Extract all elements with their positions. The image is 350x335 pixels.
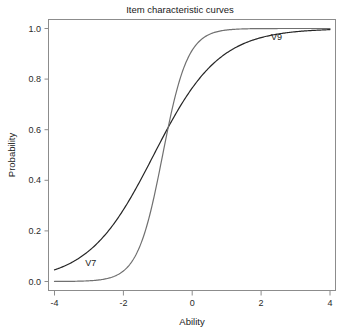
x-tick-label: 0 (190, 298, 195, 308)
x-tick-label: 2 (259, 298, 264, 308)
curve-label-v7: V7 (85, 258, 96, 268)
x-tick-label: -2 (119, 298, 127, 308)
y-tick-label: 1.0 (28, 24, 41, 34)
y-tick-label: 0.2 (28, 226, 41, 236)
y-tick-label: 0.8 (28, 74, 41, 84)
x-tick-label: -4 (50, 298, 58, 308)
chart-figure: Item characteristic curves 1.0 0.8 0.6 0… (0, 0, 350, 335)
curve-label-v9: V9 (271, 32, 282, 42)
x-tick-label: 4 (327, 298, 332, 308)
chart-title: Item characteristic curves (126, 4, 234, 15)
y-tick-label: 0.0 (28, 277, 41, 287)
x-axis-title: Ability (179, 316, 205, 327)
chart-background (0, 0, 350, 335)
y-axis-title: Probability (6, 133, 17, 178)
y-tick-label: 0.4 (28, 175, 41, 185)
y-tick-label: 0.6 (28, 125, 41, 135)
item-characteristic-curves-chart: Item characteristic curves 1.0 0.8 0.6 0… (0, 0, 350, 335)
